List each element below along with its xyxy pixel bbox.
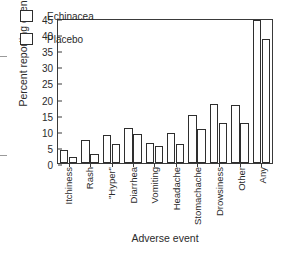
y-tick-label: 10 (42, 127, 58, 138)
bar-placebo (240, 123, 249, 163)
x-tick-label: Any (257, 167, 268, 183)
legend-entry-echinacea: Echinacea (20, 10, 94, 22)
x-tick-label-cell: Rash (79, 166, 101, 224)
x-tick-label: Itchiness (62, 167, 73, 205)
bar-echinacea (124, 128, 133, 163)
bar-echinacea (253, 20, 262, 163)
x-tick-label: Rash (84, 167, 95, 189)
bar-echinacea (231, 105, 240, 163)
bar-placebo (90, 154, 99, 163)
legend-swatch-placebo (20, 33, 33, 45)
bar-placebo (155, 146, 164, 163)
legend-entry-placebo: Placebo (20, 33, 94, 45)
bar-placebo (262, 39, 271, 163)
bar-group (122, 20, 143, 163)
bar-placebo (219, 123, 228, 163)
y-tick-label: 30 (42, 63, 58, 74)
y-tick-label: 20 (42, 95, 58, 106)
chart-legend: Echinacea Placebo (20, 10, 94, 56)
x-tick-label-cell: Stomachache (187, 166, 209, 224)
x-tick-label: Stomachache (192, 167, 203, 225)
bar-group (101, 20, 122, 163)
x-tick-label-cell: Vomiting (143, 166, 165, 224)
bar-placebo (133, 134, 142, 163)
x-tick-label: Vomiting (149, 167, 160, 203)
y-tick-label: 25 (42, 79, 58, 90)
legend-label-echinacea: Echinacea (47, 11, 94, 22)
x-tick-label-cell: Any (251, 166, 273, 224)
legend-swatch-echinacea (20, 10, 33, 22)
bar-placebo (69, 157, 78, 163)
bar-group (208, 20, 229, 163)
bar-echinacea (81, 140, 90, 163)
bar-placebo (176, 144, 185, 163)
x-tick-label: Other (235, 167, 246, 191)
bar-echinacea (60, 150, 69, 163)
bar-group (186, 20, 207, 163)
x-tick-label: Headache (170, 167, 181, 210)
y-tick-label: 5 (47, 143, 58, 154)
x-axis-tick-labels: ItchinessRash"Hyper"DiarrheaVomitingHead… (57, 166, 273, 224)
bar-group (165, 20, 186, 163)
scan-artifact-left-upper (0, 56, 7, 57)
bar-echinacea (146, 143, 155, 163)
bar-group (251, 20, 272, 163)
x-tick-label-cell: Headache (165, 166, 187, 224)
x-tick-label: Drowsiness (213, 167, 224, 216)
x-tick-label-cell: Other (230, 166, 252, 224)
bar-echinacea (188, 115, 197, 163)
bar-echinacea (167, 133, 176, 163)
x-tick-label: Diarrhea (127, 167, 138, 203)
x-tick-label-cell: Diarrhea (122, 166, 144, 224)
x-tick-label-cell: Itchiness (57, 166, 79, 224)
bar-echinacea (103, 135, 112, 163)
bar-group (229, 20, 250, 163)
x-tick-label-cell: Drowsiness (208, 166, 230, 224)
legend-label-placebo: Placebo (47, 34, 83, 45)
scan-artifact-left-lower (0, 155, 7, 156)
y-tick-label: 15 (42, 111, 58, 122)
x-tick-label-cell: "Hyper" (100, 166, 122, 224)
bar-group (144, 20, 165, 163)
x-tick-label: "Hyper" (105, 167, 116, 199)
bar-chart-figure: Percent reporting event 0510152025303540… (0, 0, 288, 253)
x-axis-title: Adverse event (57, 232, 273, 244)
bar-echinacea (210, 104, 219, 163)
bar-placebo (112, 144, 121, 163)
bar-placebo (197, 129, 206, 163)
